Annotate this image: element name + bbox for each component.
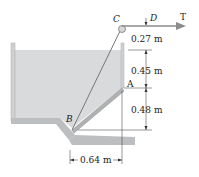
label-B: B bbox=[66, 115, 73, 124]
dim-0-48: 0.48 m bbox=[131, 106, 162, 115]
label-C: C bbox=[113, 15, 120, 24]
wall-right bbox=[121, 43, 124, 88]
tank-left-wall bbox=[11, 43, 15, 121]
force-T-arrow bbox=[176, 22, 186, 30]
floor-right bbox=[69, 135, 135, 145]
label-D: D bbox=[150, 14, 157, 23]
label-T: T bbox=[180, 13, 186, 22]
dim-0-27: 0.27 m bbox=[131, 35, 162, 44]
dim-0-64: 0.64 m bbox=[80, 156, 111, 165]
gate-diagram bbox=[0, 0, 199, 177]
D-arrow-icon bbox=[145, 22, 148, 26]
dim-0-45: 0.45 m bbox=[131, 67, 162, 76]
label-A: A bbox=[127, 80, 134, 89]
